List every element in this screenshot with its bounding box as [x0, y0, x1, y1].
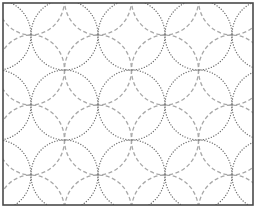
dashed-circle: [0, 175, 65, 209]
dashed-circle: [65, 105, 132, 175]
dotted-circle: [165, 0, 232, 70]
dashed-circle: [199, 0, 259, 35]
dashed-circle: [132, 105, 199, 175]
dashed-circle: [132, 0, 199, 35]
dotted-circle: [31, 140, 98, 209]
interlocking-circles: [0, 0, 258, 209]
dotted-circle: [232, 140, 258, 209]
dotted-circle: [98, 70, 165, 140]
dotted-circle: [165, 140, 232, 209]
dotted-circle: [31, 0, 98, 70]
dashed-circle: [132, 35, 199, 105]
dotted-circle: [0, 140, 31, 209]
dashed-circle: [0, 0, 65, 35]
dashed-circle: [65, 35, 132, 105]
dotted-circle: [31, 70, 98, 140]
dotted-circle: [98, 0, 165, 70]
dashed-circles: [0, 0, 258, 209]
dashed-circle: [199, 175, 259, 209]
dashed-circle: [199, 35, 259, 105]
dashed-circle: [65, 0, 132, 35]
dotted-circle: [98, 140, 165, 209]
figure-frame: [3, 3, 253, 205]
dashed-circle: [199, 105, 259, 175]
dotted-circle: [165, 70, 232, 140]
shippo-pattern-figure: [0, 0, 258, 209]
